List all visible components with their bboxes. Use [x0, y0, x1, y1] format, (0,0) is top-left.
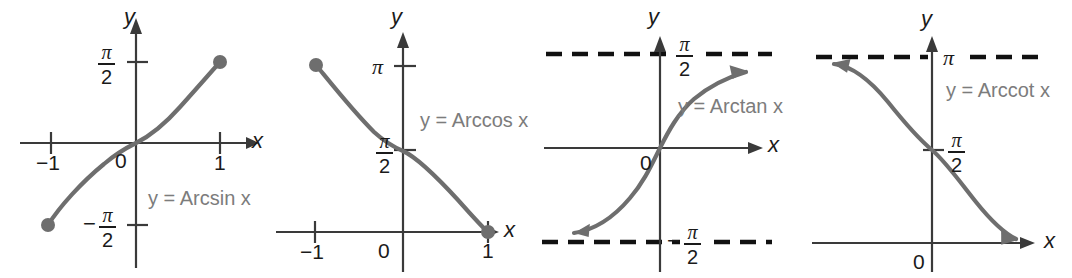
y-axis-label: y	[648, 6, 659, 28]
arccot-panel: y x 0 π π 2 y = Arccot x	[804, 0, 1072, 278]
x-axis-label: x	[768, 134, 779, 156]
equation-label: y = Arctan x	[678, 96, 783, 116]
asymptote-label-neg-pi-over-2: π 2	[684, 222, 701, 267]
x-axis-label: x	[252, 130, 263, 152]
pi-numerator: π	[98, 42, 114, 63]
pi-numerator: π	[948, 130, 964, 151]
arcsin-panel: y x −1 0 1 π 2 − π 2 y = Arcsin x	[0, 0, 268, 278]
arccos-endpoint-left	[309, 58, 323, 72]
x-axis	[544, 142, 763, 154]
arccot-plot	[804, 0, 1072, 278]
x-axis-label: x	[1044, 230, 1055, 252]
pi-numerator: π	[99, 205, 115, 226]
arccos-panel: y x −1 0 1 π π 2 y = Arccos x	[268, 0, 536, 278]
inverse-trig-graphs-figure: y x −1 0 1 π 2 − π 2 y = Arcsin x	[0, 0, 1072, 278]
arctan-panel: y x 0 π 2 − π 2 y = Arctan x	[536, 0, 804, 278]
pi-numerator: π	[376, 131, 392, 152]
asymptote-label-pi-over-2: π 2	[676, 34, 693, 79]
x-tick-label-zero: 0	[640, 152, 652, 173]
y-axis-label: y	[391, 6, 402, 28]
asymptote-label-pi: π	[943, 45, 954, 71]
equation-label: y = Arcsin x	[148, 188, 251, 208]
y-tick-label-neg-pi-over-2: π 2	[99, 205, 116, 250]
arcsin-endpoint-left	[41, 218, 55, 232]
arccos-plot	[268, 0, 536, 278]
arccos-endpoint-right	[481, 225, 495, 239]
negative-sign: −	[667, 228, 680, 254]
pi-numerator: π	[676, 34, 692, 55]
denominator-two: 2	[687, 245, 698, 267]
y-axis-label: y	[124, 6, 135, 28]
y-tick-label-pi: π	[372, 54, 383, 80]
arcsin-endpoint-right	[213, 55, 227, 69]
negative-sign: −	[83, 211, 96, 237]
denominator-two: 2	[379, 154, 390, 176]
denominator-two: 2	[102, 228, 113, 250]
x-tick-label-zero: 0	[378, 240, 390, 261]
pi-numerator: π	[684, 222, 700, 243]
equation-label: y = Arccos x	[420, 110, 528, 130]
denominator-two: 2	[679, 57, 690, 79]
x-tick-label-zero: 0	[115, 150, 127, 171]
x-tick-label-one: 1	[214, 152, 226, 173]
y-tick-label-pi-over-2: π 2	[98, 42, 115, 87]
equation-label: y = Arccot x	[946, 80, 1050, 100]
x-axis-label: x	[504, 219, 515, 241]
y-axis-label: y	[921, 8, 932, 30]
x-tick-label-neg1: −1	[300, 241, 324, 262]
y-tick-label-pi-over-2: π 2	[948, 130, 965, 175]
denominator-two: 2	[951, 153, 962, 175]
denominator-two: 2	[101, 65, 112, 87]
x-tick-label-zero: 0	[913, 251, 925, 272]
x-tick-label-neg1: −1	[36, 152, 60, 173]
x-tick-label-one: 1	[482, 240, 494, 261]
y-tick-label-pi-over-2: π 2	[376, 131, 393, 176]
arctan-arrow-right	[730, 64, 749, 79]
arcsin-plot	[0, 0, 268, 278]
x-axis	[276, 226, 499, 238]
